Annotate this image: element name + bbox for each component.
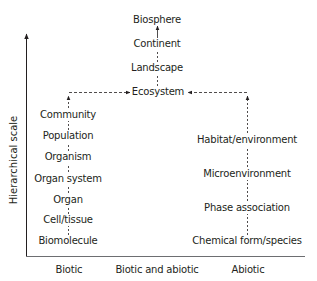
label-organ: Organ bbox=[53, 195, 83, 205]
label-habitat-environment: Habitat/environment bbox=[197, 135, 297, 145]
label-chemical-form-species: Chemical form/species bbox=[192, 236, 301, 246]
label-organ-system: Organ system bbox=[34, 174, 102, 184]
label-organism: Organism bbox=[45, 152, 92, 162]
x-category-biotic-and-abiotic: Biotic and abiotic bbox=[115, 265, 198, 275]
label-continent: Continent bbox=[133, 39, 180, 49]
label-community: Community bbox=[40, 110, 96, 120]
label-biomolecule: Biomolecule bbox=[38, 236, 97, 246]
label-landscape: Landscape bbox=[131, 63, 183, 73]
label-biosphere: Biosphere bbox=[133, 15, 181, 25]
x-category-biotic: Biotic bbox=[56, 265, 83, 275]
label-microenvironment: Microenvironment bbox=[203, 169, 290, 179]
label-phase-association: Phase association bbox=[204, 203, 290, 213]
y-axis-label: Hierarchical scale bbox=[8, 116, 19, 205]
label-ecosystem: Ecosystem bbox=[132, 87, 184, 97]
label-cell-tissue: Cell/tissue bbox=[43, 215, 92, 225]
label-population: Population bbox=[43, 131, 94, 141]
x-category-abiotic: Abiotic bbox=[232, 265, 265, 275]
